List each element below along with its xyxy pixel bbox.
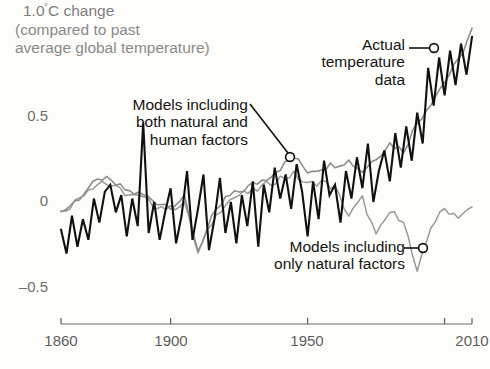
x-axis-tick-label-2010: 2010 xyxy=(442,332,490,349)
leader-line-both-factors xyxy=(250,104,288,153)
x-axis-tick-label-1860: 1860 xyxy=(31,332,91,349)
x-axis-tick-label-1900: 1900 xyxy=(141,332,201,349)
y-axis-tick-label-0-5: 0.5 xyxy=(12,107,48,124)
callout-models-natural-only: Models including only natural factors xyxy=(232,238,405,273)
axis-title-unit: C change xyxy=(48,2,114,19)
chart-axis-subtitle: (compared to past average global tempera… xyxy=(15,21,210,57)
axis-title-value: 1.0 xyxy=(23,2,45,19)
y-axis-tick-label-minus-0-5: –0.5 xyxy=(6,278,48,295)
y-axis-tick-label-0: 0 xyxy=(12,192,48,209)
callout-models-natural-and-human: Models including both natural and human … xyxy=(96,96,248,148)
series-group xyxy=(61,28,472,271)
x-axis xyxy=(61,318,472,324)
marker-natural-and-human xyxy=(286,153,295,162)
chart-axis-title: 1.0˚C change xyxy=(23,2,114,20)
degree-symbol: ˚ xyxy=(45,3,48,14)
callout-actual-temperature-data: Actual temperature data xyxy=(300,36,405,88)
marker-natural-only xyxy=(419,244,428,253)
marker-actual-temperature-data xyxy=(430,44,439,53)
x-axis-tick-label-1950: 1950 xyxy=(277,332,337,349)
climate-temperature-chart: 1.0˚C change (compared to past average g… xyxy=(0,0,490,369)
x-axis-ticks xyxy=(61,318,472,324)
